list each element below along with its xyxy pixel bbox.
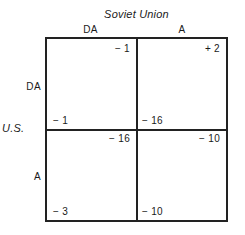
row-payoff: − 16 — [142, 115, 163, 126]
row-header-a: A — [0, 171, 41, 182]
column-player-title: Soviet Union — [45, 8, 228, 20]
row-payoff: − 1 — [53, 115, 68, 126]
payoff-matrix-figure: Soviet Union DA A U.S. DA A − 1 − 1 + 2 … — [0, 0, 245, 235]
column-payoff: − 10 — [199, 133, 220, 144]
matrix-cell-da-da: − 1 − 1 — [47, 39, 136, 129]
matrix-cell-a-da: − 16 − 3 — [47, 129, 136, 220]
matrix-cell-a-a: − 10 − 10 — [136, 129, 226, 220]
row-payoff: − 10 — [142, 206, 163, 217]
row-payoff: − 3 — [53, 206, 68, 217]
column-header-da: DA — [45, 24, 136, 35]
matrix-cell-da-a: + 2 − 16 — [136, 39, 226, 129]
column-payoff: + 2 — [205, 43, 220, 54]
column-payoff: − 1 — [115, 43, 130, 54]
matrix-grid: − 1 − 1 + 2 − 16 − 16 − 3 − 10 − 10 — [45, 37, 228, 222]
row-player-title: U.S. — [2, 122, 42, 134]
column-payoff: − 16 — [109, 133, 130, 144]
row-header-da: DA — [0, 81, 41, 92]
column-header-a: A — [136, 24, 228, 35]
